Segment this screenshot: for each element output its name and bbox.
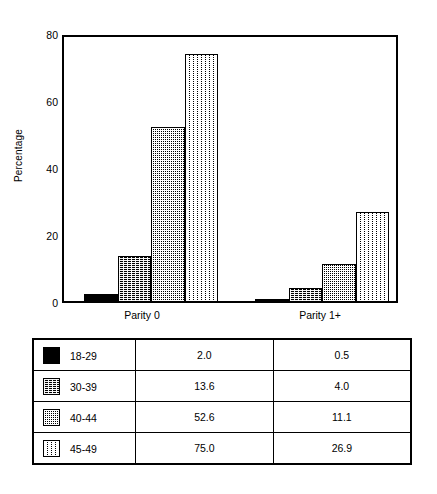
legend-label: 40-44: [70, 411, 97, 423]
bar-45-49-parity-0: [185, 54, 219, 302]
bar-18-29-parity-0: [84, 294, 118, 301]
data-table-body: 18-292.00.530-3913.64.040-4452.611.145-4…: [33, 339, 411, 464]
table-row: 18-292.00.5: [33, 339, 411, 371]
bar-group-parity-0: [84, 37, 218, 301]
cell-parity-1plus: 4.0: [273, 371, 411, 402]
legend-label: 45-49: [70, 442, 97, 454]
legend-cell-18-29: 18-29: [33, 339, 136, 371]
cell-parity-1plus: 26.9: [273, 433, 411, 465]
bar-30-39-parity-0: [118, 256, 152, 301]
y-axis-title: Percentage: [13, 116, 24, 196]
legend-label: 18-29: [70, 349, 97, 361]
cell-parity-0: 52.6: [136, 402, 274, 433]
legend-cell-30-39: 30-39: [33, 371, 136, 402]
y-tick-label-60: 60: [30, 97, 58, 107]
x-tick-label-parity-0: Parity 0: [62, 309, 222, 321]
legend-cell-40-44: 40-44: [33, 402, 136, 433]
legend-swatch-icon-45-49: [43, 440, 60, 457]
y-tick-label-80: 80: [30, 30, 58, 40]
table-row: 30-3913.64.0: [33, 371, 411, 402]
bar-40-44-parity-1-: [322, 264, 356, 301]
y-tick-label-0: 0: [30, 298, 58, 308]
table-row: 45-4975.026.9: [33, 433, 411, 465]
y-tick-label-20: 20: [30, 231, 58, 241]
legend-cell-45-49: 45-49: [33, 433, 136, 465]
bar-18-29-parity-1-: [255, 299, 289, 301]
cell-parity-0: 13.6: [136, 371, 274, 402]
cell-parity-1plus: 11.1: [273, 402, 411, 433]
legend-swatch-icon-40-44: [43, 409, 60, 426]
plot-area: [62, 35, 398, 303]
y-axis-tick-labels: 020406080: [26, 35, 58, 303]
x-tick-label-parity-1plus: Parity 1+: [240, 309, 400, 321]
legend-label: 30-39: [70, 380, 97, 392]
bar-chart-figure: Percentage 020406080 Parity 0 Parity 1+: [0, 0, 437, 332]
bar-group-parity-1plus: [255, 37, 389, 301]
plot-inner: [64, 37, 396, 301]
cell-parity-0: 75.0: [136, 433, 274, 465]
cell-parity-1plus: 0.5: [273, 339, 411, 371]
bar-40-44-parity-0: [151, 127, 185, 301]
legend-swatch-icon-18-29: [43, 347, 60, 364]
cell-parity-0: 2.0: [136, 339, 274, 371]
y-tick-label-40: 40: [30, 164, 58, 174]
table-row: 40-4452.611.1: [33, 402, 411, 433]
legend-swatch-icon-30-39: [43, 378, 60, 395]
data-value-table: 18-292.00.530-3913.64.040-4452.611.145-4…: [32, 338, 412, 465]
bar-30-39-parity-1-: [289, 288, 323, 301]
bar-45-49-parity-1-: [356, 212, 390, 301]
